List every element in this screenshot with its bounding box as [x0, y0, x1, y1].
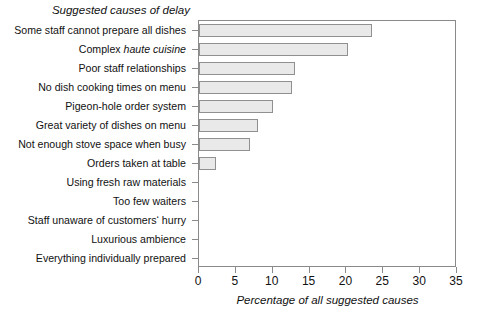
category-label: Pigeon-hole order system	[0, 100, 186, 112]
x-axis-tick-label: 30	[412, 274, 425, 289]
x-axis-tick-label: 0	[195, 274, 202, 289]
x-axis-title: Percentage of all suggested causes	[198, 293, 457, 307]
x-axis-tick-label: 5	[232, 274, 239, 289]
category-label: Everything individually prepared	[0, 252, 186, 264]
category-label: Luxurious ambience	[0, 233, 186, 245]
bar	[199, 24, 372, 38]
category-label: Not enough stove space when busy	[0, 138, 186, 150]
bar	[199, 81, 292, 95]
bar	[199, 43, 348, 57]
category-label: Staff unaware of customers‘ hurry	[0, 214, 186, 226]
category-label: No dish cooking times on menu	[0, 81, 186, 93]
category-label: Complex haute cuisine	[0, 43, 186, 55]
x-axis-tick-labels: 05101520253035	[198, 274, 457, 290]
category-label: Poor staff relationships	[0, 62, 186, 74]
bar	[199, 157, 216, 171]
category-axis-labels: Some staff cannot prepare all dishesComp…	[0, 20, 191, 267]
category-label: Orders taken at table	[0, 157, 186, 169]
x-axis-tick	[382, 267, 383, 273]
x-axis-tick	[198, 267, 199, 273]
x-axis-tick-label: 20	[339, 274, 352, 289]
x-axis-tick-label: 15	[302, 274, 315, 289]
category-label: Some staff cannot prepare all dishes	[0, 24, 186, 36]
category-label: Too few waiters	[0, 195, 186, 207]
x-axis-tick-label: 10	[265, 274, 278, 289]
plot-area	[198, 20, 456, 267]
x-axis-ticks	[198, 267, 457, 273]
bar	[199, 138, 250, 152]
chart-title: Suggested causes of delay	[0, 3, 190, 17]
x-axis-tick	[272, 267, 273, 273]
x-axis-tick	[235, 267, 236, 273]
x-axis-tick	[309, 267, 310, 273]
bar	[199, 119, 258, 133]
category-label: Using fresh raw materials	[0, 176, 186, 188]
bar-series	[199, 21, 455, 266]
bar	[199, 62, 295, 76]
bar	[199, 100, 273, 114]
x-axis-tick	[419, 267, 420, 273]
x-axis-tick-label: 35	[449, 274, 462, 289]
bar-chart-figure: Suggested causes of delay Some staff can…	[0, 0, 477, 322]
category-label: Great variety of dishes on menu	[0, 119, 186, 131]
x-axis-tick-label: 25	[376, 274, 389, 289]
x-axis-tick	[456, 267, 457, 273]
x-axis-tick	[345, 267, 346, 273]
